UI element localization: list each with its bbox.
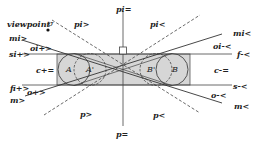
label-pi-lt: pi< bbox=[150, 20, 165, 28]
label-mi-lt: mi< bbox=[233, 29, 251, 37]
label-region-A: A bbox=[66, 66, 72, 74]
diagram-canvas: viewpoint σ pi= pi> pi< mi> oi+> si+> c+… bbox=[0, 0, 254, 143]
label-oi-gt: oi+> bbox=[30, 44, 52, 52]
label-region-B: B bbox=[172, 66, 178, 74]
label-c-plus-eq: c+= bbox=[36, 66, 54, 74]
label-pi-eq: pi= bbox=[116, 5, 131, 13]
sigma-label: σ bbox=[48, 20, 53, 28]
label-m-gt: m> bbox=[10, 96, 25, 104]
label-pi-gt: pi> bbox=[74, 20, 89, 28]
label-o-gt: o+> bbox=[27, 88, 46, 96]
label-si-gt: si+> bbox=[9, 50, 30, 58]
label-mi-gt: mi> bbox=[9, 34, 27, 42]
label-region-B-prime: B' bbox=[147, 66, 155, 74]
right-angle-marker bbox=[120, 47, 127, 54]
viewpoint-label: viewpoint bbox=[7, 20, 50, 28]
label-region-A-prime: A' bbox=[86, 66, 94, 74]
label-p-gt: p> bbox=[80, 110, 92, 118]
line-m-gt-mi-lt bbox=[25, 34, 222, 96]
label-p-eq: p= bbox=[116, 130, 128, 138]
label-oi-lt: oi-< bbox=[213, 42, 231, 50]
label-s-lt: s-< bbox=[233, 82, 248, 90]
label-f-lt: f-< bbox=[237, 50, 250, 58]
label-o-lt: o-< bbox=[211, 91, 226, 99]
label-c-minus-eq: c-= bbox=[214, 66, 229, 74]
label-m-lt: m< bbox=[234, 102, 249, 110]
label-p-lt: p< bbox=[153, 111, 165, 119]
